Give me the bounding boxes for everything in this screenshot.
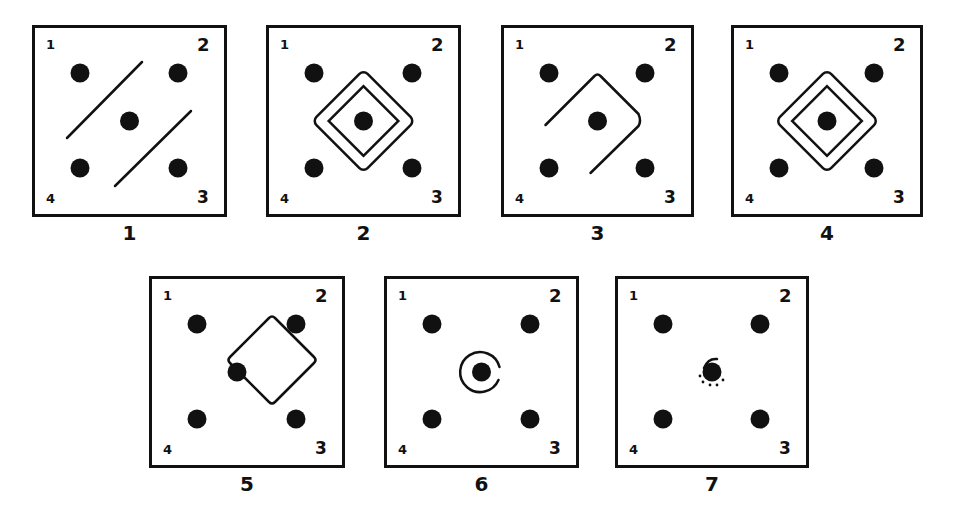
panel-6: 1234 — [384, 276, 579, 468]
dot-2 — [865, 64, 884, 83]
dot-center — [818, 112, 837, 131]
corner-label-4: 4 — [46, 191, 55, 206]
dot-1 — [540, 64, 559, 83]
panel-7-drawing: 1234 — [615, 276, 809, 468]
corner-label-2: 2 — [893, 34, 906, 55]
corner-label-3: 3 — [197, 187, 209, 207]
dot-2 — [403, 64, 422, 83]
corner-label-1: 1 — [398, 288, 407, 303]
panel-1-drawing: 1234 — [32, 25, 227, 217]
dot-4 — [770, 159, 789, 178]
panel-4-caption: 4 — [807, 221, 847, 245]
corner-label-4: 4 — [745, 191, 754, 206]
panel-5-drawing: 1234 — [149, 276, 345, 468]
corner-label-2: 2 — [549, 285, 562, 306]
corner-label-2: 2 — [779, 285, 792, 306]
dot-4 — [540, 159, 559, 178]
corner-label-4: 4 — [398, 442, 407, 457]
panel-2-caption: 2 — [344, 221, 384, 245]
corner-label-1: 1 — [280, 37, 289, 52]
dot-1 — [305, 64, 324, 83]
dot-2 — [751, 315, 770, 334]
dot-1 — [71, 64, 90, 83]
panel-7-caption: 7 — [692, 472, 732, 496]
dot-2 — [169, 64, 188, 83]
dot-3 — [865, 159, 884, 178]
dot-1 — [654, 315, 673, 334]
panel-1-caption: 1 — [110, 221, 150, 245]
corner-label-4: 4 — [629, 442, 638, 457]
corner-label-1: 1 — [515, 37, 524, 52]
dot-1 — [188, 315, 207, 334]
panel-7: 1234 — [615, 276, 809, 468]
corner-label-3: 3 — [779, 438, 791, 458]
dot-3 — [403, 159, 422, 178]
corner-label-4: 4 — [163, 442, 172, 457]
panel-3: 1234 — [501, 25, 694, 217]
panel-6-drawing: 1234 — [384, 276, 579, 468]
corner-label-1: 1 — [629, 288, 638, 303]
corner-label-3: 3 — [431, 187, 443, 207]
corner-label-1: 1 — [163, 288, 172, 303]
dot-4 — [71, 159, 90, 178]
panel-1: 1234 — [32, 25, 227, 217]
dot-4 — [188, 410, 207, 429]
corner-label-3: 3 — [664, 187, 676, 207]
dot-3 — [521, 410, 540, 429]
dot-2 — [636, 64, 655, 83]
dot-3 — [751, 410, 770, 429]
panel-4: 1234 — [731, 25, 923, 217]
dot-center — [228, 363, 247, 382]
dot-center — [588, 112, 607, 131]
corner-label-3: 3 — [315, 438, 327, 458]
panel-5: 1234 — [149, 276, 345, 468]
panel-3-drawing: 1234 — [501, 25, 694, 217]
dot-4 — [654, 410, 673, 429]
corner-label-2: 2 — [315, 285, 328, 306]
corner-label-1: 1 — [745, 37, 754, 52]
dot-1 — [423, 315, 442, 334]
corner-label-3: 3 — [893, 187, 905, 207]
corner-label-2: 2 — [664, 34, 677, 55]
dot-2 — [521, 315, 540, 334]
corner-label-3: 3 — [549, 438, 561, 458]
corner-label-1: 1 — [46, 37, 55, 52]
corner-label-4: 4 — [515, 191, 524, 206]
panel-2: 1234 — [266, 25, 461, 217]
dot-3 — [636, 159, 655, 178]
dot-3 — [169, 159, 188, 178]
panel-2-drawing: 1234 — [266, 25, 461, 217]
corner-label-2: 2 — [197, 34, 210, 55]
panel-3-caption: 3 — [578, 221, 618, 245]
dot-center — [354, 112, 373, 131]
dot-center — [120, 112, 139, 131]
dot-4 — [423, 410, 442, 429]
dot-3 — [287, 410, 306, 429]
panel-6-caption: 6 — [462, 472, 502, 496]
corner-label-2: 2 — [431, 34, 444, 55]
dot-4 — [305, 159, 324, 178]
corner-label-4: 4 — [280, 191, 289, 206]
dot-center — [472, 363, 491, 382]
panel-5-caption: 5 — [227, 472, 267, 496]
panel-4-drawing: 1234 — [731, 25, 923, 217]
dot-1 — [770, 64, 789, 83]
